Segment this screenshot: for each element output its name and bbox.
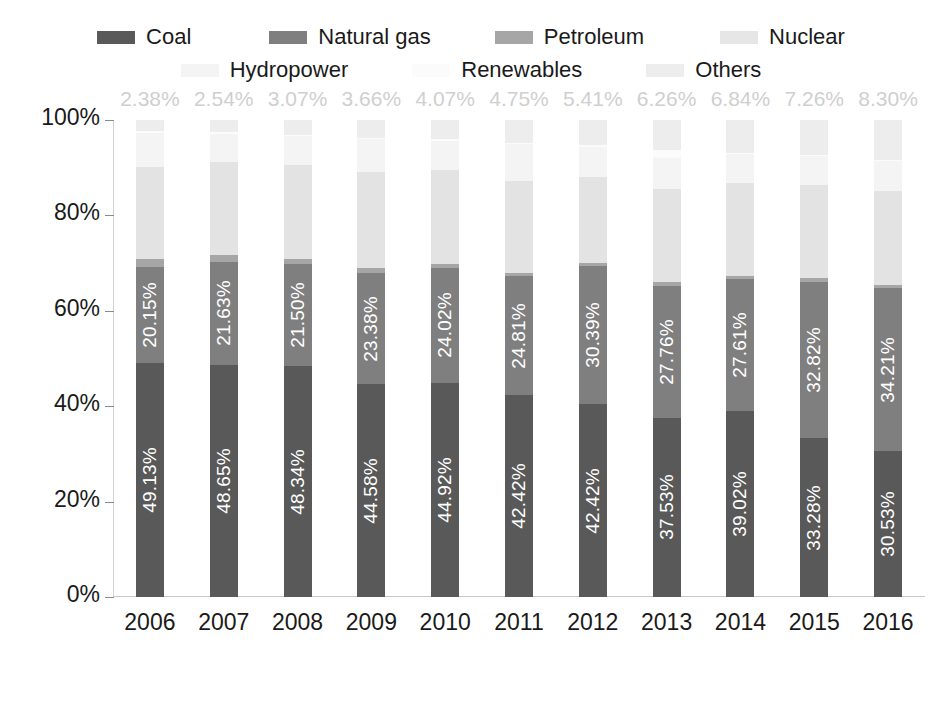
legend-label: Nuclear	[769, 26, 845, 48]
x-tick-column: 2006	[113, 120, 187, 680]
legend-label: Petroleum	[544, 26, 644, 48]
x-tick-column: 2014	[704, 120, 778, 680]
y-tick-label: 40%	[8, 390, 100, 417]
legend-swatch-icon	[495, 31, 533, 44]
x-tick-column: 2012	[556, 120, 630, 680]
others-value-label: 3.66%	[342, 87, 402, 111]
x-tick-column: 2011	[482, 120, 556, 680]
x-tick-label: 2012	[567, 609, 618, 636]
others-value-label: 7.26%	[784, 87, 844, 111]
legend-swatch-icon	[269, 31, 307, 44]
x-tick-column: 2007	[187, 120, 261, 680]
legend-label: Natural gas	[318, 26, 431, 48]
x-tick-column: 2015	[777, 120, 851, 680]
x-tick-column: 2013	[630, 120, 704, 680]
legend-label: Hydropower	[230, 59, 349, 81]
others-value-label: 4.07%	[415, 87, 475, 111]
others-value-label: 8.30%	[858, 87, 918, 111]
legend-swatch-icon	[181, 64, 219, 77]
x-tick-label: 2009	[346, 609, 397, 636]
x-tick-label: 2013	[641, 609, 692, 636]
legend-swatch-icon	[97, 31, 135, 44]
x-tick-column: 2010	[408, 120, 482, 680]
legend-item-others[interactable]: Others	[646, 59, 761, 81]
legend-item-coal[interactable]: Coal	[97, 26, 191, 48]
chart-root: CoalNatural gasPetroleumNuclear Hydropow…	[0, 0, 942, 703]
others-value-label: 6.26%	[637, 87, 697, 111]
legend-swatch-icon	[720, 31, 758, 44]
y-tick-label: 100%	[8, 104, 100, 131]
others-value-label: 5.41%	[563, 87, 623, 111]
others-value-label: 2.54%	[194, 87, 254, 111]
others-value-label: 3.07%	[268, 87, 328, 111]
others-value-label: 2.38%	[120, 87, 180, 111]
legend-swatch-icon	[646, 64, 684, 77]
x-tick-label: 2010	[420, 609, 471, 636]
y-axis-labels: 100%80%60%40%20%0%	[0, 88, 100, 703]
x-tick-label: 2016	[862, 609, 913, 636]
x-tick-column: 2009	[334, 120, 408, 680]
y-tick-label: 60%	[8, 295, 100, 322]
plot-area: 100%80%60%40%20%0% 49.13%20.15%2.38%48.6…	[0, 88, 942, 703]
chart-legend: CoalNatural gasPetroleumNuclear Hydropow…	[0, 22, 942, 88]
x-tick-column: 2016	[851, 120, 925, 680]
legend-item-hydropower[interactable]: Hydropower	[181, 59, 349, 81]
x-tick-label: 2015	[789, 609, 840, 636]
x-axis-labels: 2006200720082009201020112012201320142015…	[113, 120, 925, 680]
y-tick-label: 80%	[8, 199, 100, 226]
x-tick-label: 2006	[124, 609, 175, 636]
legend-item-renewables[interactable]: Renewables	[412, 59, 582, 81]
legend-item-nuclear[interactable]: Nuclear	[720, 26, 845, 48]
legend-row-1: CoalNatural gasPetroleumNuclear	[0, 22, 942, 52]
x-tick-label: 2007	[198, 609, 249, 636]
y-tick-label: 20%	[8, 486, 100, 513]
x-tick-label: 2011	[494, 609, 543, 636]
legend-label: Renewables	[461, 59, 582, 81]
legend-row-2: HydropowerRenewablesOthers	[0, 55, 942, 85]
x-tick-column: 2008	[261, 120, 335, 680]
legend-item-natural-gas[interactable]: Natural gas	[269, 26, 431, 48]
x-tick-label: 2008	[272, 609, 323, 636]
others-value-label: 6.84%	[711, 87, 771, 111]
legend-item-petroleum[interactable]: Petroleum	[495, 26, 644, 48]
legend-label: Others	[695, 59, 761, 81]
x-tick-label: 2014	[715, 609, 766, 636]
legend-label: Coal	[146, 26, 191, 48]
others-value-label: 4.75%	[489, 87, 549, 111]
y-tick-label: 0%	[8, 581, 100, 608]
legend-swatch-icon	[412, 64, 450, 77]
